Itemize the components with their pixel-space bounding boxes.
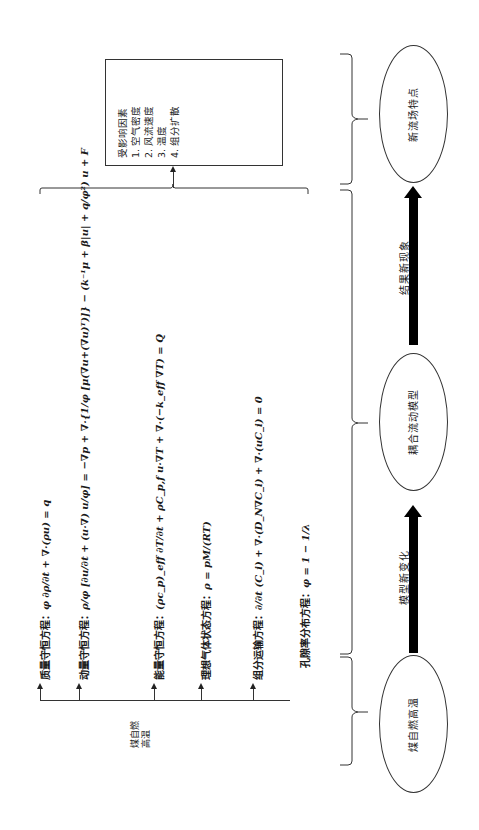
factors-text: 受影响因素 1. 空气密度 2. 风流速度 3. 温度 4. 组分扩散 bbox=[116, 106, 181, 158]
arrow-up-icon bbox=[76, 683, 82, 689]
tree-source-label: 煤自燃 高温 bbox=[130, 721, 152, 748]
equation-formula: ρ = pM/(RT) bbox=[201, 521, 212, 590]
node-label: 耦合流动模型 bbox=[405, 389, 420, 455]
equation-formula: φ = 1 − 1/λ bbox=[300, 524, 311, 588]
equation-mass: 质量守恒方程：φ ∂ρ/∂t + ∇·(ρu) = q bbox=[34, 500, 53, 680]
equation-species: 组分运输方程：∂/∂t (C_i) + ∇·(D_N∇C_i) + ∇·(uC_… bbox=[247, 396, 266, 680]
equation-formula: ∂/∂t (C_i) + ∇·(D_N∇C_i) + ∇·(uC_i) = 0 bbox=[253, 396, 264, 610]
equation-formula: ρ/φ [∂u/∂t + (u·∇) u/φ] = −∇p + ∇·{1/φ [… bbox=[79, 148, 90, 610]
node-label: 煤自燃高温 bbox=[405, 697, 420, 752]
equation-porosity: 孔隙率分布方程：φ = 1 − 1/λ bbox=[294, 524, 313, 668]
factor-item: 2. 风流速度 bbox=[143, 106, 154, 158]
brace-to-box-line bbox=[173, 172, 174, 188]
arrow-up-icon bbox=[250, 683, 256, 689]
branch-mass bbox=[40, 688, 41, 700]
equation-ideal-gas: 理想气体状态方程：ρ = pM/(RT) bbox=[195, 521, 214, 680]
arrow-up-icon bbox=[198, 683, 204, 689]
node-label: 新流场特点 bbox=[405, 87, 420, 142]
factor-item: 4. 组分扩散 bbox=[169, 106, 180, 158]
tree-trunk bbox=[40, 700, 290, 701]
arrow-up-icon bbox=[37, 683, 43, 689]
branch-species bbox=[253, 688, 254, 700]
branch-energy bbox=[154, 688, 155, 700]
branch-gas bbox=[201, 688, 202, 700]
equation-label: 组分运输方程： bbox=[253, 610, 264, 680]
factors-title: 受影响因素 bbox=[117, 108, 128, 158]
equation-label: 孔隙率分布方程： bbox=[300, 588, 311, 668]
factor-item: 1. 空气密度 bbox=[130, 106, 141, 158]
equation-label: 能量守恒方程： bbox=[154, 610, 165, 680]
transition-label: 模型新变化 bbox=[396, 550, 411, 605]
branch-momentum bbox=[79, 688, 80, 700]
factors-side-brace bbox=[338, 52, 378, 187]
arrow-up-icon bbox=[151, 683, 157, 689]
transition-label: 结果新现象 bbox=[396, 240, 411, 295]
equation-momentum: 动量守恒方程：ρ/φ [∂u/∂t + (u·∇) u/φ] = −∇p + ∇… bbox=[73, 148, 92, 680]
factor-item: 3. 温度 bbox=[156, 126, 167, 158]
source-side-brace bbox=[338, 655, 378, 770]
equation-label: 动量守恒方程： bbox=[79, 610, 90, 680]
equation-energy: 能量守恒方程：(ρc_p)_eff ∂T/∂t + ρC_p,f u·∇T + … bbox=[148, 334, 167, 680]
equation-formula: (ρc_p)_eff ∂T/∂t + ρC_p,f u·∇T + ∇·(−k_e… bbox=[154, 334, 165, 610]
factors-box: 受影响因素 1. 空气密度 2. 风流速度 3. 温度 4. 组分扩散 bbox=[105, 59, 283, 166]
equation-formula: φ ∂ρ/∂t + ∇·(ρu) = q bbox=[40, 500, 51, 610]
equations-side-brace bbox=[338, 188, 378, 658]
equations-brace bbox=[38, 180, 313, 196]
arrow-up-icon bbox=[170, 166, 176, 172]
equation-label: 理想气体状态方程： bbox=[201, 590, 212, 680]
equation-label: 质量守恒方程： bbox=[40, 610, 51, 680]
